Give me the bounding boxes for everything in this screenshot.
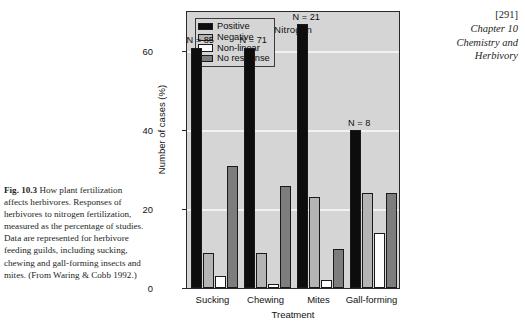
figure-chart: Number of cases (%) 0204060 Nitrogen Pos… xyxy=(138,6,406,306)
x-tick-label: Mites xyxy=(307,294,330,305)
y-axis-label: Number of cases (%) xyxy=(156,55,167,205)
bar-negative xyxy=(362,193,373,288)
bar-group: N = 8 xyxy=(187,12,399,288)
bar-no-response xyxy=(386,193,397,288)
plot-area: Nitrogen Positive Negative Non-linear No… xyxy=(186,11,400,289)
group-annotation: N = 8 xyxy=(348,118,370,128)
y-tick-label: 20 xyxy=(123,204,153,215)
y-tick-label: 0 xyxy=(123,283,153,294)
running-head: [291] Chapter 10 Chemistry and Herbivory xyxy=(398,8,518,63)
x-tick-label: Chewing xyxy=(247,294,284,305)
figure-caption: Fig. 10.3 How plant fertilization affect… xyxy=(4,184,144,281)
figure-number: Fig. 10.3 xyxy=(4,185,37,195)
running-head-line-1: Chapter 10 xyxy=(398,22,518,36)
bar-non-linear xyxy=(374,233,385,288)
x-axis-label: Treatment xyxy=(186,309,400,320)
y-tick-label: 60 xyxy=(123,46,153,57)
figure-page: [291] Chapter 10 Chemistry and Herbivory… xyxy=(0,0,525,329)
page-folio: [291] xyxy=(398,8,518,22)
y-tick-label: 40 xyxy=(123,125,153,136)
running-head-line-3: Herbivory xyxy=(398,49,518,63)
bar-groups: N = 85N = 71N = 21N = 8 xyxy=(187,12,399,288)
bar-positive xyxy=(350,130,361,288)
figure-caption-text: How plant fertilization affects herbivor… xyxy=(4,185,143,280)
x-tick-label: Gall-forming xyxy=(346,294,398,305)
running-head-line-2: Chemistry and xyxy=(398,36,518,50)
x-tick-label: Sucking xyxy=(196,294,230,305)
